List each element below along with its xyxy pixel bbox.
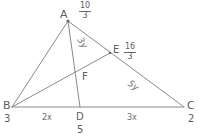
geometry-canvas <box>0 0 199 138</box>
point-value-D: 5 <box>77 125 83 135</box>
segment-label-DC: 3x <box>127 114 137 122</box>
segment-label-BD: 2x <box>42 114 52 122</box>
edge-AC <box>68 21 184 107</box>
point-label-F: F <box>82 72 88 82</box>
geometry-diagram: A 10 3 3y E 16 3 5y F B 3 2x D 5 3x C 2 <box>0 0 199 138</box>
cevian-AD <box>68 21 80 107</box>
vertex-label-A: A <box>60 9 68 20</box>
edge-AB <box>12 21 68 107</box>
vertex-value-C: 2 <box>188 114 194 124</box>
vertex-label-C: C <box>187 100 195 111</box>
point-label-D: D <box>76 112 84 122</box>
fraction-at-A-numerator: 10 <box>79 2 91 10</box>
point-marker-E <box>109 52 112 55</box>
fraction-at-E: 16 3 <box>124 43 136 62</box>
fraction-at-A-denominator: 3 <box>82 12 89 20</box>
fraction-at-A: 10 3 <box>79 2 91 21</box>
fraction-at-E-denominator: 3 <box>127 53 134 61</box>
vertex-label-B: B <box>3 100 11 111</box>
fraction-at-E-numerator: 16 <box>124 43 136 51</box>
cevian-BE <box>12 53 110 107</box>
point-label-E: E <box>113 45 119 55</box>
vertex-value-B: 3 <box>4 114 10 124</box>
